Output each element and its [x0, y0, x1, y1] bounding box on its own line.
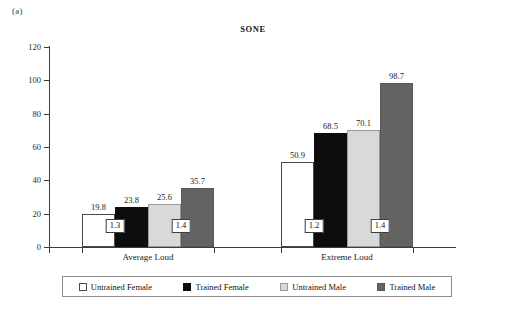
legend-label: Trained Male	[389, 282, 435, 292]
x-tick-mark	[281, 247, 282, 253]
y-tick-label: 100	[28, 75, 41, 85]
chart-title: SONE	[0, 24, 506, 34]
bar-value-label: 98.7	[389, 71, 404, 81]
ratio-annotation-box: 1.4	[172, 219, 191, 233]
plot-area: 020406080100120 19.823.825.635.750.968.5…	[49, 46, 456, 248]
y-tick-mark	[44, 214, 49, 215]
legend-label: Untrained Male	[292, 282, 346, 292]
y-tick-mark	[44, 180, 49, 181]
y-tick-label: 120	[28, 42, 41, 52]
bar-value-label: 23.8	[124, 195, 139, 205]
legend-item[interactable]: Untrained Male	[280, 282, 346, 292]
legend-swatch	[183, 283, 191, 291]
bar-value-label: 50.9	[290, 150, 305, 160]
x-axis-group-label: Average Loud	[122, 252, 173, 262]
y-axis-line	[49, 46, 50, 248]
y-tick-label: 40	[33, 175, 42, 185]
x-tick-mark	[49, 247, 50, 253]
legend-label: Untrained Female	[91, 282, 152, 292]
x-tick-mark	[413, 247, 414, 253]
legend-swatch	[280, 283, 288, 291]
y-tick-label: 60	[33, 142, 42, 152]
x-axis-group-label: Extreme Loud	[321, 252, 373, 262]
y-tick-label: 80	[33, 109, 42, 119]
bar-value-label: 70.1	[356, 118, 371, 128]
x-axis-line	[49, 247, 456, 248]
legend-label: Trained Female	[195, 282, 248, 292]
y-tick-mark	[44, 114, 49, 115]
bar	[281, 162, 314, 247]
y-tick-label: 20	[33, 209, 42, 219]
legend-swatch	[377, 283, 385, 291]
legend-swatch	[79, 283, 87, 291]
legend-item[interactable]: Trained Female	[183, 282, 248, 292]
y-tick-mark	[44, 147, 49, 148]
chart-legend: Untrained FemaleTrained FemaleUntrained …	[62, 276, 452, 297]
bar-value-label: 25.6	[157, 192, 172, 202]
bar-value-label: 68.5	[323, 121, 338, 131]
y-tick-mark	[44, 80, 49, 81]
ratio-annotation-box: 1.3	[106, 219, 125, 233]
legend-item[interactable]: Untrained Female	[79, 282, 152, 292]
panel-label: (a)	[12, 6, 23, 16]
figure-sone-bar-chart: (a) SONE 020406080100120 19.823.825.635.…	[0, 0, 506, 312]
bar-value-label: 19.8	[91, 202, 106, 212]
y-tick-mark	[44, 47, 49, 48]
x-tick-mark	[214, 247, 215, 253]
bar-value-label: 35.7	[190, 176, 205, 186]
x-tick-mark	[82, 247, 83, 253]
y-tick-label: 0	[37, 242, 41, 252]
legend-item[interactable]: Trained Male	[377, 282, 435, 292]
ratio-annotation-box: 1.4	[371, 219, 390, 233]
bar	[181, 188, 214, 248]
ratio-annotation-box: 1.2	[305, 219, 324, 233]
